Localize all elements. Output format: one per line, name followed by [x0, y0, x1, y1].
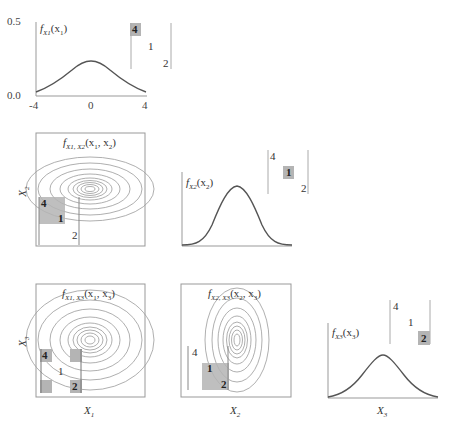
marginal-x2-curve — [182, 186, 292, 245]
label-args: (x — [230, 287, 239, 299]
matrix-5-c: 2 — [221, 378, 227, 390]
matrix-2-a: 4 — [41, 197, 47, 209]
matrix-3-b: 1 — [286, 166, 292, 178]
label-close: ) — [64, 22, 68, 34]
matrix-4-a: 4 — [42, 349, 48, 361]
matrix-1-a: 4 — [132, 23, 138, 35]
title-marginal-x3: fX3(x3) — [332, 326, 359, 341]
matrix-4-c: 2 — [72, 380, 78, 392]
title-marginal-x2: fX2(x2) — [186, 176, 213, 191]
axis-var: X — [16, 340, 28, 347]
label-sub: X1, X2 — [66, 143, 85, 151]
matrix-1-b: 1 — [148, 40, 154, 52]
title-joint-x1x3: fX1, X3(x1, x3) — [62, 287, 115, 302]
label-mid: , x — [97, 287, 108, 299]
label-sub: X3 — [335, 333, 343, 341]
label-sub: X2 — [189, 183, 197, 191]
marginal-x3-curve — [328, 355, 438, 397]
label-sub: X1, X3 — [65, 294, 84, 302]
label-args: (x — [84, 287, 93, 299]
y-tick-top: 0.5 — [7, 15, 21, 27]
label-close: ) — [111, 287, 115, 299]
label-sub: X1 — [43, 29, 51, 37]
label-args: (x — [85, 136, 94, 148]
marginal-x1-curve — [36, 61, 146, 92]
axis-sub: 3 — [23, 336, 31, 340]
ylabel-x3: X3 — [16, 336, 31, 346]
matrix-4-b: 1 — [58, 365, 64, 377]
axis-var: X — [230, 404, 237, 416]
label-close: ) — [257, 287, 261, 299]
axis-sub: 1 — [91, 411, 95, 419]
label-close: ) — [210, 176, 214, 188]
label-mid: , x — [243, 287, 254, 299]
matrix-2-c: 2 — [72, 229, 78, 241]
x-tick-left: -4 — [29, 99, 38, 111]
axis-var: X — [377, 404, 384, 416]
title-marginal-x1: fX1(x1) — [40, 22, 67, 37]
xlabel-x2: X2 — [230, 404, 240, 419]
matrix-5-a: 4 — [192, 346, 198, 358]
y-tick-bottom: 0.0 — [7, 89, 21, 101]
label-close: ) — [112, 136, 116, 148]
title-joint-x1x2: fX1, X2(x1, x2) — [63, 136, 116, 151]
joint-x1x3-contours — [26, 290, 154, 390]
axis-var: X — [16, 190, 28, 197]
label-args: (x — [51, 22, 60, 34]
axis-sub: 3 — [384, 411, 388, 419]
label-args: (x — [197, 176, 206, 188]
matrix-6-a: 4 — [393, 300, 399, 312]
title-joint-x2x3: fX2, X3(x2, x3) — [208, 287, 261, 302]
xlabel-x1: X1 — [84, 404, 94, 419]
matrix-6-c: 2 — [421, 332, 427, 344]
axis-var: X — [84, 404, 91, 416]
ylabel-x2: X2 — [16, 186, 31, 196]
axis-sub: 2 — [237, 411, 241, 419]
figure-canvas — [0, 0, 449, 423]
matrix-5-b: 1 — [207, 362, 213, 374]
label-sub: X2, X3 — [211, 294, 230, 302]
x-tick-right: 4 — [142, 99, 148, 111]
matrix-1-c: 2 — [163, 57, 169, 69]
x-tick-mid: 0 — [88, 99, 94, 111]
matrix-6-b: 1 — [408, 316, 414, 328]
matrix-2-b: 1 — [58, 212, 64, 224]
xlabel-x3: X3 — [377, 404, 387, 419]
label-close: ) — [356, 326, 360, 338]
label-args: (x — [343, 326, 352, 338]
axis-sub: 2 — [23, 186, 31, 190]
matrix-3-c: 2 — [301, 182, 307, 194]
matrix-3-a: 4 — [270, 150, 276, 162]
label-mid: , x — [98, 136, 109, 148]
